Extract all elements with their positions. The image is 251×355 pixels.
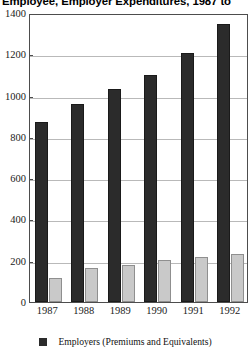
bar xyxy=(195,257,208,302)
y-tick-mark xyxy=(29,138,33,139)
x-tick-label: 1989 xyxy=(102,305,139,317)
legend-item[interactable]: Employers (Premiums and Equivalents) xyxy=(39,337,211,347)
x-tick-label: 1991 xyxy=(175,305,212,317)
x-tick-label: 1990 xyxy=(139,305,176,317)
bar xyxy=(49,278,62,302)
bar xyxy=(35,122,48,302)
legend-swatch-icon xyxy=(39,338,47,346)
gridline xyxy=(30,180,247,181)
y-tick-mark xyxy=(29,14,33,15)
gridline xyxy=(30,98,247,99)
bar xyxy=(217,24,230,302)
bar xyxy=(108,89,121,302)
gridline xyxy=(30,139,247,140)
gridline xyxy=(30,221,247,222)
bar xyxy=(181,53,194,302)
y-tick-mark xyxy=(29,97,33,98)
plot-area xyxy=(29,14,248,303)
bar xyxy=(144,75,157,302)
y-axis: 0200400600800100012001400 xyxy=(0,0,26,355)
legend-item-label: Employers (Premiums and Equivalents) xyxy=(58,337,211,347)
x-tick-label: 1988 xyxy=(66,305,103,317)
y-tick-label: 200 xyxy=(0,257,26,267)
y-tick-mark xyxy=(29,262,33,263)
y-tick-label: 0 xyxy=(0,298,26,308)
y-tick-label: 400 xyxy=(0,215,26,225)
y-tick-mark xyxy=(29,179,33,180)
y-tick-label: 1000 xyxy=(0,92,26,102)
y-tick-label: 1200 xyxy=(0,50,26,60)
gridline xyxy=(30,263,247,264)
y-tick-label: 600 xyxy=(0,174,26,184)
bar xyxy=(158,260,171,302)
x-axis: 198719881989199019911992 xyxy=(29,305,248,321)
chart-title: Employee, Employer Expenditures, 1987 to xyxy=(2,0,251,8)
x-tick-label: 1992 xyxy=(212,305,249,317)
bar xyxy=(122,265,135,302)
bar xyxy=(231,254,244,303)
bar-chart-figure: Employee, Employer Expenditures, 1987 to… xyxy=(0,0,251,355)
chart-legend: Employers (Premiums and Equivalents) xyxy=(0,332,251,352)
y-tick-mark xyxy=(29,220,33,221)
bar xyxy=(85,268,98,302)
y-tick-label: 800 xyxy=(0,133,26,143)
y-tick-mark xyxy=(29,55,33,56)
bar xyxy=(71,104,84,302)
gridline xyxy=(30,56,247,57)
y-tick-label: 1400 xyxy=(0,9,26,19)
x-tick-label: 1987 xyxy=(29,305,66,317)
